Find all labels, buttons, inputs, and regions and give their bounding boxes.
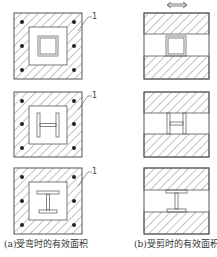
callout-label: 1 — [92, 167, 97, 176]
panel-b-i — [144, 168, 209, 234]
caption-a: (a)受弯时的有效面积 — [4, 237, 88, 250]
panel-b-box — [144, 13, 209, 79]
caption-b: (b)受剪时的有效面积 — [134, 237, 217, 250]
panel-a-i: 1 — [14, 167, 97, 234]
double-arrow-icon — [167, 2, 187, 8]
callout-label: 1 — [92, 91, 97, 100]
diagram-canvas: 1 1 1 — [0, 0, 217, 257]
panel-a-box: 1 — [14, 12, 97, 79]
panel-b-h — [144, 92, 209, 157]
panel-a-h: 1 — [14, 91, 97, 157]
callout-label: 1 — [92, 12, 97, 21]
